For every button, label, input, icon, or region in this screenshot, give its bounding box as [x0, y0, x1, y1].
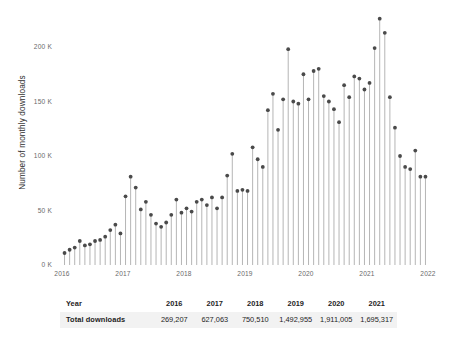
table-cell: 627,063: [195, 312, 236, 328]
table-cell: 1,695,317: [357, 312, 398, 328]
x-tick-label: 2016: [42, 270, 82, 277]
x-axis-tick-labels: 2016201720182019202020212022: [0, 0, 454, 292]
table-cell: 2019: [276, 296, 317, 312]
x-tick-label: 2022: [408, 270, 448, 277]
x-tick-label: 2019: [225, 270, 265, 277]
table-cell: 2017: [195, 296, 236, 312]
table-cell: 750,510: [235, 312, 276, 328]
plot-area: Number of monthly downloads 0 K50 K100 K…: [0, 0, 454, 292]
table-cell: 1,911,005: [316, 312, 357, 328]
table-row-label: Year: [60, 296, 154, 312]
table-row-label: Total downloads: [60, 312, 154, 328]
x-tick-label: 2017: [103, 270, 143, 277]
downloads-stem-figure: Number of monthly downloads 0 K50 K100 K…: [0, 0, 454, 348]
table-cell: 2018: [235, 296, 276, 312]
table-cell: 2021: [357, 296, 398, 312]
x-tick-label: 2020: [286, 270, 326, 277]
x-tick-label: 2021: [347, 270, 387, 277]
table-cell: 1,492,955: [276, 312, 317, 328]
yearly-totals-table: Year201620172018201920202021Total downlo…: [60, 296, 397, 328]
table-row: Year201620172018201920202021: [60, 296, 397, 312]
table-row: Total downloads269,207627,063750,5101,49…: [60, 312, 397, 328]
table-cell: 2020: [316, 296, 357, 312]
summary-table-wrap: Year201620172018201920202021Total downlo…: [60, 296, 397, 338]
table-cell: 2016: [154, 296, 195, 312]
table-cell: 269,207: [154, 312, 195, 328]
x-tick-label: 2018: [164, 270, 204, 277]
